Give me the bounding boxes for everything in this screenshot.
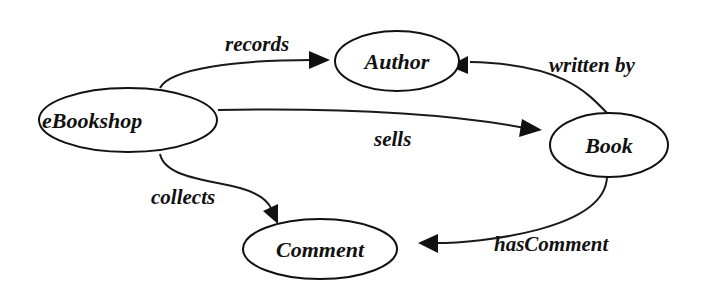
arrowhead-icon [418, 234, 438, 253]
author-label: Author [363, 49, 430, 74]
edge-label-written-by: written by [549, 53, 635, 77]
node-ebookshop: eBookshop [39, 88, 217, 152]
book-label: Book [584, 133, 633, 158]
node-comment: Comment [243, 219, 397, 279]
edge-label-records: records [225, 32, 289, 56]
comment-label: Comment [276, 237, 365, 262]
ebookshop-label: eBookshop [42, 108, 142, 133]
edge-sells-line [218, 110, 525, 128]
node-author: Author [335, 31, 459, 91]
edge-records [160, 51, 330, 88]
edge-label-collects: collects [151, 185, 215, 209]
concept-diagram: eBookshop Author Book Comment records se… [0, 0, 704, 299]
node-book: Book [550, 113, 668, 177]
edge-records-line [160, 60, 312, 88]
edge-label-sells: sells [373, 127, 411, 151]
arrowhead-icon [519, 119, 542, 137]
edge-label-has-comment: hasComment [494, 232, 610, 256]
arrowhead-icon [309, 51, 330, 69]
